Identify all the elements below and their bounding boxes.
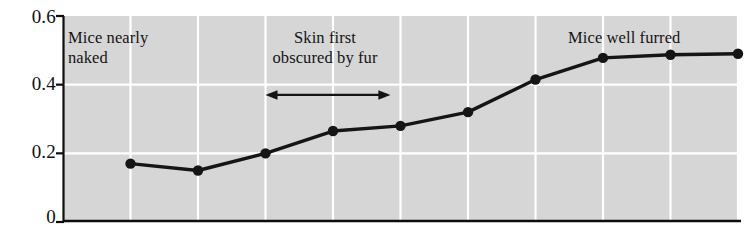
data-point-marker: [193, 165, 203, 175]
y-tick-label-0.6: 0.6: [8, 6, 56, 28]
chart-figure: 0 0.2 0.4 0.6 Mice nearly naked Skin fir…: [0, 0, 753, 239]
annotation-skin-first-obscured-by-fur: Skin first obscured by fur: [230, 28, 420, 68]
data-point-marker: [530, 74, 540, 84]
data-point-marker: [665, 50, 675, 60]
data-point-marker: [395, 121, 405, 131]
data-point-marker: [733, 49, 743, 59]
data-point-marker: [125, 158, 135, 168]
data-point-marker: [463, 107, 473, 117]
y-tick-label-0.2: 0.2: [8, 141, 56, 163]
annotation-mice-nearly-naked: Mice nearly naked: [68, 28, 148, 68]
data-point-marker: [328, 126, 338, 136]
y-tick-label-0.4: 0.4: [8, 73, 56, 95]
data-point-marker: [598, 53, 608, 63]
data-point-marker: [260, 148, 270, 158]
y-tick-label-0: 0: [8, 206, 56, 228]
annotation-mice-well-furred: Mice well furred: [568, 28, 680, 48]
